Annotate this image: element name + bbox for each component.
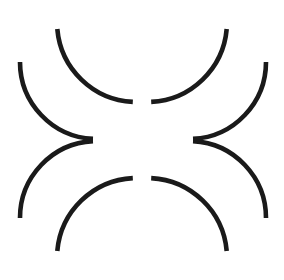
illusory-contour-figure: Illusory contour figure bbox=[0, 0, 284, 280]
figure-background bbox=[0, 0, 284, 280]
figure-canvas: Illusory contour figure bbox=[0, 0, 284, 280]
